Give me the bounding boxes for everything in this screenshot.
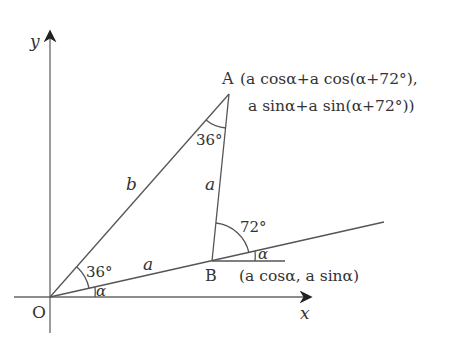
point-A-coord-line1: (a cosα+a cos(α+72°), xyxy=(240,70,418,88)
point-A-label: A xyxy=(221,69,234,88)
point-B-label: B xyxy=(205,266,217,285)
segment-OB-label: a xyxy=(143,254,153,274)
angle-alpha-B-label: α xyxy=(258,245,268,263)
x-axis-label: x xyxy=(300,303,310,323)
angle-AOB-label: 36° xyxy=(86,263,113,281)
segment-OA xyxy=(50,94,229,297)
angle-xOB-label: α xyxy=(96,282,106,300)
segment-OA-label: b xyxy=(126,174,137,194)
angle-OAB-label: 36° xyxy=(196,131,223,149)
segment-AB-label: a xyxy=(205,174,215,194)
point-B-coord: (a cosα, a sinα) xyxy=(239,267,359,285)
origin-label: O xyxy=(32,302,46,322)
angle-72-label: 72° xyxy=(240,218,267,236)
diagram-canvas: y x O A (a cosα+a cos(α+72°), a sinα+a s… xyxy=(0,0,462,354)
angle-arc-OAB xyxy=(206,120,226,128)
point-A-coord-line2: a sinα+a sin(α+72°)) xyxy=(248,97,415,115)
y-axis-label: y xyxy=(29,31,40,51)
